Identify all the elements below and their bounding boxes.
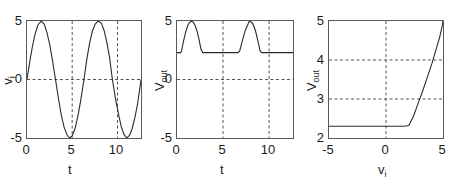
panel-1-canvas [27,21,141,138]
panel-input-sine: 5 0 -5 0 5 10 vi t [0,0,148,191]
panel-3-xtick-neg5: -5 [318,143,338,156]
series-clipped-output [177,21,293,53]
three-panel-figure: 5 0 -5 0 5 10 vi t 5 0 -5 0 5 10 Vout [0,0,453,191]
panel-3-canvas [329,21,443,138]
plot-area-panel-3 [328,20,444,139]
panel-1-ylabel-main: v [0,78,15,85]
panel-1-xtick-0: 0 [19,143,33,156]
panel-3-ylabel: Vout [305,60,320,102]
panel-clipped-output: 5 0 -5 0 5 10 Vout t [148,0,300,191]
panel-2-ylabel: Vout [153,60,168,102]
panel-1-ylabel-sub: i [7,76,17,78]
panel-3-xlabel: vi [378,163,387,178]
panel-3-ylabel-main: V [304,82,319,91]
panel-1-xtick-5: 5 [64,143,78,156]
panel-2-ylabel-sub: out [159,70,169,83]
panel-3-ytick-5: 5 [310,14,324,27]
plot-area-panel-2 [176,20,294,139]
plot-area-panel-1 [26,20,142,139]
panel-3-xtick-0: 0 [378,143,392,156]
panel-1-ylabel: vi [1,64,16,98]
panel-2-xtick-5: 5 [215,143,229,156]
panel-1-xlabel: t [68,163,72,176]
panel-3-xtick-5: 5 [435,143,449,156]
panel-2-ylabel-main: V [152,82,167,91]
panel-2-ytick-5: 5 [158,14,172,27]
panel-3-xlabel-sub: i [385,169,387,179]
panel-2-xtick-10: 10 [259,143,277,156]
panel-3-xlabel-main: v [378,162,385,177]
panel-1-xtick-10: 10 [107,143,125,156]
panel-2-xtick-0: 0 [169,143,183,156]
panel-2-canvas [177,21,293,138]
panel-2-xlabel: t [220,163,224,176]
panel-transfer-characteristic: 5 4 3 2 -5 0 5 Vout vi [300,0,453,191]
panel-3-ylabel-sub: out [311,70,321,83]
panel-1-ytick-5: 5 [8,14,22,27]
